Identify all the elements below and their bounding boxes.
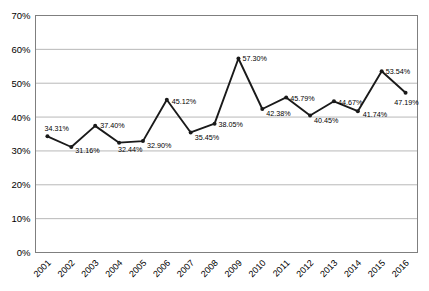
data-label: 47.19%: [394, 98, 419, 107]
data-point: [69, 145, 73, 149]
y-tick-label: 20%: [11, 179, 31, 190]
y-tick-label: 70%: [11, 10, 31, 21]
data-point: [189, 130, 193, 134]
data-point: [332, 99, 336, 103]
data-label: 45.12%: [172, 97, 197, 106]
line-chart: 0%10%20%30%40%50%60%70%20012002200320042…: [0, 0, 429, 291]
y-tick-label: 60%: [11, 44, 31, 55]
data-point: [165, 98, 169, 102]
data-point: [213, 122, 217, 126]
chart-container: 0%10%20%30%40%50%60%70%20012002200320042…: [0, 0, 429, 291]
data-point: [380, 69, 384, 73]
data-point: [93, 124, 97, 128]
data-label: 45.79%: [290, 94, 315, 103]
data-label: 42.38%: [266, 109, 291, 118]
data-point: [45, 134, 49, 138]
data-label: 34.31%: [44, 124, 69, 133]
data-label: 31.16%: [75, 146, 100, 155]
data-label: 57.30%: [242, 54, 267, 63]
data-point: [284, 95, 288, 99]
y-tick-label: 40%: [11, 112, 31, 123]
y-tick-label: 50%: [11, 78, 31, 89]
data-label: 32.44%: [118, 145, 143, 154]
data-point: [404, 91, 408, 95]
data-label: 41.74%: [363, 110, 388, 119]
y-tick-label: 30%: [11, 145, 31, 156]
data-point: [308, 114, 312, 118]
data-label: 38.05%: [219, 120, 244, 129]
data-label: 44.67%: [338, 98, 363, 107]
data-label: 53.54%: [386, 67, 411, 76]
data-label: 37.40%: [100, 121, 125, 130]
y-tick-label: 0%: [17, 247, 31, 258]
y-tick-label: 10%: [11, 213, 31, 224]
data-point: [141, 139, 145, 143]
chart-background: [0, 0, 429, 291]
data-point: [260, 107, 264, 111]
data-label: 40.45%: [314, 116, 339, 125]
data-point: [236, 56, 240, 60]
data-label: 32.90%: [147, 141, 172, 150]
data-label: 35.45%: [195, 133, 220, 142]
data-point: [356, 109, 360, 113]
